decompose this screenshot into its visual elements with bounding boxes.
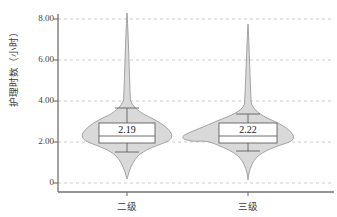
x-tick-label-2: 三级 <box>218 199 278 213</box>
x-axis <box>58 192 334 196</box>
violin-shape-1 <box>82 13 172 179</box>
plot-canvas <box>0 0 337 217</box>
y-axis <box>53 14 58 192</box>
violin-shape-2 <box>183 24 294 180</box>
gridlines <box>58 19 332 183</box>
x-tick-label-1: 二级 <box>97 199 157 213</box>
median-value-label-2: 2.22 <box>218 124 278 135</box>
median-value-label-1: 2.19 <box>97 124 157 135</box>
violin-chart: 护理时数（小时） 8.00 6.00 4.00 2.00 0 <box>0 0 337 217</box>
violin-group-1 <box>82 13 172 179</box>
violin-group-2 <box>183 24 294 180</box>
